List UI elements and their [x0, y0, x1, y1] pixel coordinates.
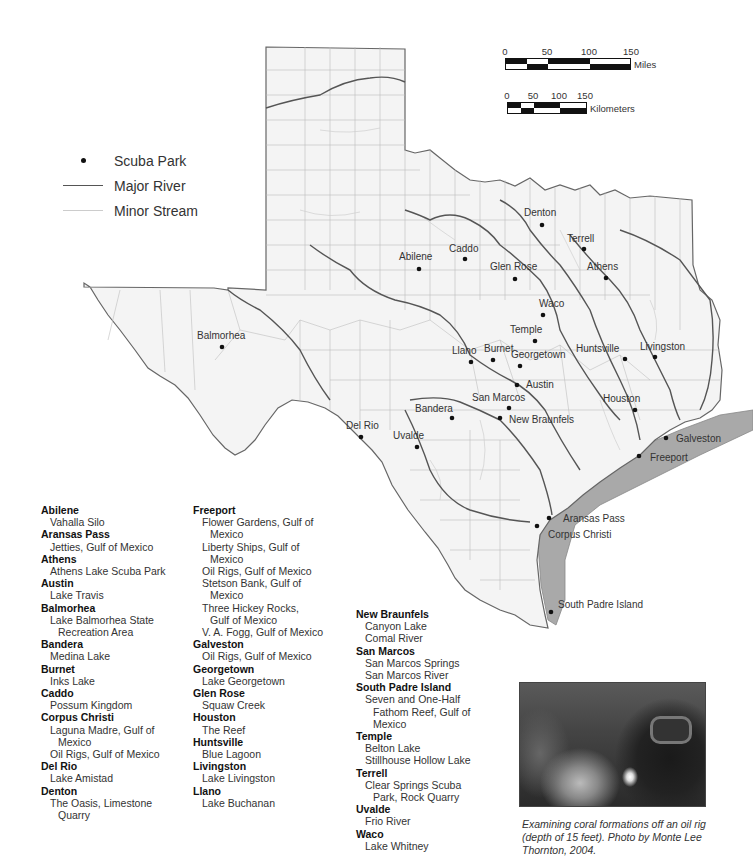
directory-city: Aransas Pass: [41, 528, 166, 540]
directory-city: Glen Rose: [193, 687, 323, 699]
svg-text:Del Rio: Del Rio: [346, 420, 379, 431]
svg-text:Galveston: Galveston: [676, 433, 721, 444]
directory-site: Belton Lake: [356, 742, 471, 754]
directory-site: Canyon Lake: [356, 620, 471, 632]
directory-site: Lake Livingston: [193, 772, 323, 784]
svg-text:Llano: Llano: [452, 345, 477, 356]
directory-site: Oil Rigs, Gulf of Mexico: [193, 565, 323, 577]
svg-text:Abilene: Abilene: [399, 251, 433, 262]
legend-scuba-park: Scuba Park: [62, 148, 198, 173]
photo-caption: Examining coral formations off an oil ri…: [522, 818, 722, 857]
directory-city: Galveston: [193, 638, 323, 650]
diving-mask: [650, 716, 692, 744]
directory-site: Clear Springs Scuba: [356, 779, 471, 791]
directory-site: Lake Balmorhea State: [41, 614, 166, 626]
directory-site: Quarry: [41, 809, 166, 821]
svg-text:San Marcos: San Marcos: [472, 392, 525, 403]
directory-site: Flower Gardens, Gulf of: [193, 516, 323, 528]
directory-site: Mexico: [193, 528, 323, 540]
svg-text:Denton: Denton: [524, 207, 556, 218]
directory-site: Stetson Bank, Gulf of: [193, 577, 323, 589]
directory-city: Livingston: [193, 760, 323, 772]
svg-text:Georgetown: Georgetown: [511, 349, 565, 360]
directory-site: The Reef: [193, 724, 323, 736]
directory-site: Mexico: [41, 736, 166, 748]
directory-site: Vahalla Silo: [41, 516, 166, 528]
directory-site: Liberty Ships, Gulf of: [193, 541, 323, 553]
directory-city: San Marcos: [356, 645, 471, 657]
directory-site: Mexico: [193, 589, 323, 601]
directory-site: Lake Amistad: [41, 772, 166, 784]
svg-text:Glen Rose: Glen Rose: [490, 261, 538, 272]
svg-text:Terrell: Terrell: [567, 233, 594, 244]
directory-site: Lake Georgetown: [193, 675, 323, 687]
directory-city: Balmorhea: [41, 602, 166, 614]
directory-site: Park, Rock Quarry: [356, 791, 471, 803]
directory-site: Three Hickey Rocks,: [193, 602, 323, 614]
svg-text:Aransas Pass: Aransas Pass: [563, 513, 625, 524]
directory-site: Oil Rigs, Gulf of Mexico: [41, 748, 166, 760]
directory-site: Possum Kingdom: [41, 699, 166, 711]
directory-city: Austin: [41, 577, 166, 589]
svg-text:Huntsville: Huntsville: [576, 343, 620, 354]
scale-bar-kilometers: 0 50 100 150 Kilometers: [507, 90, 635, 114]
directory-column-3: New BraunfelsCanyon LakeComal RiverSan M…: [356, 608, 471, 852]
svg-text:Freeport: Freeport: [650, 452, 688, 463]
minor-stream-line-icon: [63, 210, 103, 211]
directory-site: Frio River: [356, 815, 471, 827]
directory-city: Huntsville: [193, 736, 323, 748]
directory-city: Waco: [356, 828, 471, 840]
directory-city: Del Rio: [41, 760, 166, 772]
svg-text:Athens: Athens: [587, 261, 618, 272]
directory-site: Laguna Madre, Gulf of: [41, 724, 166, 736]
directory-site: Squaw Creek: [193, 699, 323, 711]
texas-outline: [84, 47, 722, 628]
directory-city: Uvalde: [356, 803, 471, 815]
directory-city: Abilene: [41, 504, 166, 516]
svg-text:Caddo: Caddo: [449, 243, 479, 254]
directory-site: Comal River: [356, 632, 471, 644]
directory-site: Oil Rigs, Gulf of Mexico: [193, 650, 323, 662]
diver-photo: [519, 682, 706, 807]
svg-text:Temple: Temple: [510, 324, 543, 335]
svg-text:South Padre Island: South Padre Island: [558, 599, 643, 610]
svg-text:Uvalde: Uvalde: [393, 430, 425, 441]
directory-site: Lake Buchanan: [193, 797, 323, 809]
directory-column-2: FreeportFlower Gardens, Gulf ofMexicoLib…: [193, 504, 323, 809]
legend-minor-stream: Minor Stream: [62, 198, 198, 223]
svg-text:New Braunfels: New Braunfels: [509, 414, 574, 425]
directory-city: Houston: [193, 711, 323, 723]
directory-city: Athens: [41, 553, 166, 565]
directory-site: Mexico: [356, 718, 471, 730]
svg-text:Houston: Houston: [603, 393, 640, 404]
directory-site: San Marcos River: [356, 669, 471, 681]
directory-site: Jetties, Gulf of Mexico: [41, 541, 166, 553]
directory-site: Blue Lagoon: [193, 748, 323, 760]
directory-site: Stillhouse Hollow Lake: [356, 754, 471, 766]
svg-text:Corpus Christi: Corpus Christi: [548, 529, 611, 540]
directory-site: Lake Whitney: [356, 840, 471, 852]
directory-city: Freeport: [193, 504, 323, 516]
svg-text:Livingston: Livingston: [640, 341, 685, 352]
major-river-line-icon: [63, 185, 103, 187]
map-legend: Scuba Park Major River Minor Stream: [62, 148, 198, 223]
directory-site: V. A. Fogg, Gulf of Mexico: [193, 626, 323, 638]
directory-site: Lake Travis: [41, 589, 166, 601]
directory-city: Temple: [356, 730, 471, 742]
directory-site: Recreation Area: [41, 626, 166, 638]
directory-site: Seven and One-Half: [356, 693, 471, 705]
svg-text:Austin: Austin: [526, 379, 554, 390]
directory-city: New Braunfels: [356, 608, 471, 620]
svg-text:Bandera: Bandera: [415, 403, 453, 414]
directory-site: San Marcos Springs: [356, 657, 471, 669]
directory-city: Bandera: [41, 638, 166, 650]
directory-site: The Oasis, Limestone: [41, 797, 166, 809]
directory-site: Medina Lake: [41, 650, 166, 662]
svg-text:Balmorhea: Balmorhea: [197, 330, 246, 341]
scuba-park-dot-icon: [81, 158, 86, 163]
directory-city: Caddo: [41, 687, 166, 699]
directory-city: Burnet: [41, 663, 166, 675]
directory-city: Georgetown: [193, 663, 323, 675]
directory-city: Denton: [41, 785, 166, 797]
directory-city: Corpus Christi: [41, 711, 166, 723]
